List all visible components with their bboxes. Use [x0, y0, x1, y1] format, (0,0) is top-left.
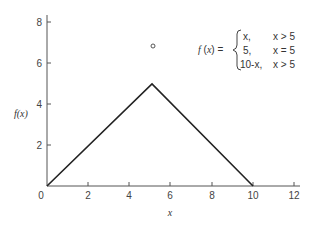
case-cond: x > 5: [273, 31, 295, 42]
x-tick-label: 12: [288, 190, 300, 201]
x-tick-label: 10: [247, 190, 259, 201]
chart: 8 6 4 2 0 2 4 6 8 10 12 x f(x) f (x) = x…: [0, 0, 312, 229]
y-ticks: [47, 22, 51, 145]
formula-lhs: f (x) =: [198, 44, 223, 55]
x-axis-label: x: [167, 207, 173, 218]
x-tick-labels: 0 2 4 6 8 10 12: [38, 190, 300, 201]
case-cond: x > 5: [273, 59, 295, 70]
open-point-marker: [151, 44, 155, 48]
x-ticks: [88, 182, 294, 186]
y-tick-label: 8: [36, 17, 42, 28]
piecewise-formula: f (x) = x, x > 5 5, x = 5 10-x, x > 5: [198, 30, 295, 70]
y-tick-label: 6: [36, 58, 42, 69]
y-tick-labels: 8 6 4 2: [36, 17, 42, 151]
case-expr: x,: [243, 31, 251, 42]
case-cond: x = 5: [273, 45, 295, 56]
y-axis-label: f(x): [14, 108, 29, 120]
x-tick-label: 4: [126, 190, 132, 201]
x-tick-label: 0: [38, 190, 44, 201]
y-tick-label: 4: [36, 99, 42, 110]
case-expr: 5,: [243, 45, 251, 56]
case-expr: 10-x,: [240, 59, 262, 70]
function-line: [47, 84, 253, 186]
x-tick-label: 2: [85, 190, 91, 201]
x-tick-label: 6: [167, 190, 173, 201]
x-tick-label: 8: [209, 190, 215, 201]
y-tick-label: 2: [36, 140, 42, 151]
